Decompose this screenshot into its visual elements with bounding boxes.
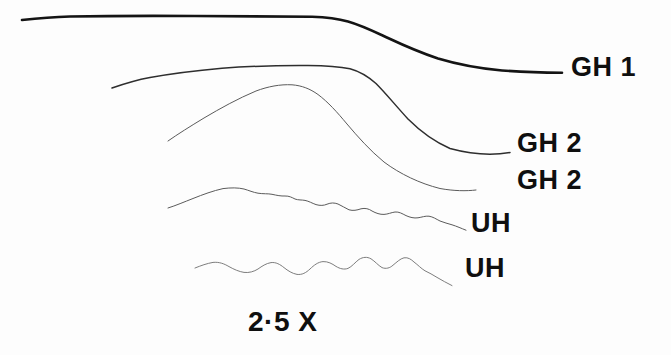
trace-figure: GH 1 GH 2 GH 2 UH UH 2·5 X bbox=[0, 0, 671, 355]
magnification-scale-label: 2·5 X bbox=[248, 306, 317, 338]
trace-uh-upper bbox=[168, 188, 466, 230]
trace-gh1-top bbox=[22, 16, 562, 73]
trace-label-uh-upper: UH bbox=[471, 208, 511, 239]
trace-label-gh2-upper: GH 2 bbox=[517, 128, 582, 159]
trace-uh-lower bbox=[195, 257, 452, 285]
trace-gh2-upper bbox=[112, 66, 510, 155]
trace-label-uh-lower: UH bbox=[465, 253, 505, 284]
trace-label-gh1: GH 1 bbox=[571, 52, 636, 83]
trace-label-gh2-lower: GH 2 bbox=[517, 165, 582, 196]
